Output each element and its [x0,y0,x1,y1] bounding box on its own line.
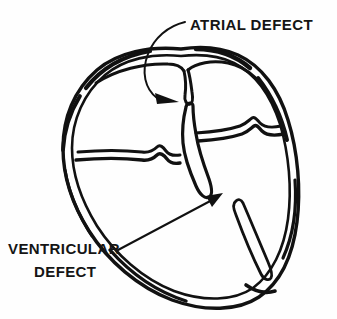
atrial-roof-inner-fold-right [188,62,273,104]
atrial-defect-arrowhead [155,93,179,104]
atrial-septum-stub [184,70,193,104]
ventricular-defect-label-line2: DEFECT [34,263,96,280]
atrial-defect-label: ATRIAL DEFECT [190,16,313,33]
av-groove-right-upper [196,117,281,133]
atrial-defect-arrow-shaft [145,22,185,98]
av-groove-left-lower [76,154,180,164]
heart-inner-wall-outline [72,55,290,298]
figure-root: ATRIAL DEFECT VENTRICULAR DEFECT [0,0,337,319]
ventricular-defect-arrowhead [206,193,223,207]
ventricular-septum-upper [183,103,212,197]
lower-septum-segment [234,200,272,280]
ventricular-defect-arrow-shaft [118,199,214,250]
av-groove-left-upper [78,146,180,156]
ventricular-defect-label-line1: VENTRICULAR [8,240,120,257]
heart-septal-defect-diagram: ATRIAL DEFECT VENTRICULAR DEFECT [0,0,337,319]
